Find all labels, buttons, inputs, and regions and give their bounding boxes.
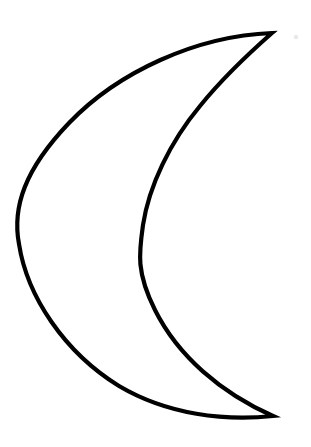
canvas-background: [0, 0, 311, 447]
scan-speck-artifact: [294, 35, 298, 39]
crescent-moon-illustration: Crescent Moon: [0, 0, 311, 447]
drawing-canvas: Crescent Moon: [0, 0, 311, 447]
